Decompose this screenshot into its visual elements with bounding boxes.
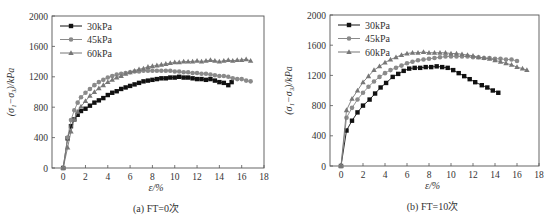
x-tick-label: 4 <box>105 172 110 182</box>
y-axis-label: (σ₁−σ₃)/kPa <box>283 66 295 115</box>
legend-entry-60kPa: 60kPa <box>365 47 391 58</box>
figure: 0400800120016002000024681012141618ε/%(σ₁… <box>0 0 556 222</box>
y-tick-label: 1200 <box>29 72 48 82</box>
x-axis-label: ε/% <box>425 180 440 191</box>
x-tick-label: 2 <box>83 172 88 182</box>
y-axis-label: (σ₁−σ₃)/kPa <box>5 68 17 117</box>
y-tick-label: 400 <box>312 131 327 141</box>
legend: 30kPa45kPa60kPa <box>60 21 113 59</box>
legend-entry-30kPa: 30kPa <box>365 20 391 31</box>
legend-entry-45kPa: 45kPa <box>87 34 113 45</box>
x-axis-label: ε/% <box>148 182 163 193</box>
series-45kPa <box>339 54 520 168</box>
figure-caption: (b) FT=10次 <box>407 200 458 213</box>
x-tick-label: 0 <box>61 172 66 182</box>
y-tick-label: 1200 <box>307 71 326 81</box>
x-tick-label: 2 <box>361 170 366 180</box>
y-tick-label: 400 <box>34 133 49 143</box>
x-tick-label: 18 <box>259 172 269 182</box>
y-tick-label: 800 <box>34 103 49 113</box>
y-tick-label: 1600 <box>307 41 326 51</box>
x-tick-label: 14 <box>215 172 225 182</box>
x-tick-label: 4 <box>383 170 388 180</box>
y-tick-label: 2000 <box>307 11 326 21</box>
x-tick-label: 14 <box>490 170 500 180</box>
x-tick-label: 6 <box>128 172 133 182</box>
legend: 30kPa45kPa60kPa <box>338 20 391 58</box>
plot-frame <box>330 15 539 166</box>
legend-entry-45kPa: 45kPa <box>365 33 391 44</box>
y-tick-label: 800 <box>312 101 327 111</box>
x-tick-label: 8 <box>150 172 155 182</box>
legend-entry-60kPa: 60kPa <box>87 48 113 59</box>
x-tick-label: 0 <box>339 170 344 180</box>
y-tick-label: 1600 <box>29 42 48 52</box>
series-60kPa <box>60 57 253 170</box>
y-tick-label: 2000 <box>29 12 48 22</box>
x-tick-label: 16 <box>512 170 522 180</box>
figure-caption: (a) FT=0次 <box>133 202 179 215</box>
y-tick-label: 0 <box>43 164 48 174</box>
x-tick-label: 18 <box>534 170 544 180</box>
chart-panel-b: 0400800120016002000024681012141618ε/%(σ₁… <box>283 11 544 214</box>
legend-entry-30kPa: 30kPa <box>87 21 113 32</box>
x-tick-label: 12 <box>468 170 478 180</box>
series-30kPa <box>61 75 234 171</box>
x-tick-label: 10 <box>446 170 456 180</box>
chart-panel-a: 0400800120016002000024681012141618ε/%(σ₁… <box>5 12 269 216</box>
x-tick-label: 8 <box>427 170 432 180</box>
x-tick-label: 16 <box>237 172 247 182</box>
x-tick-label: 12 <box>192 172 202 182</box>
x-tick-label: 10 <box>170 172 180 182</box>
y-tick-label: 0 <box>321 162 326 172</box>
x-tick-label: 6 <box>405 170 410 180</box>
